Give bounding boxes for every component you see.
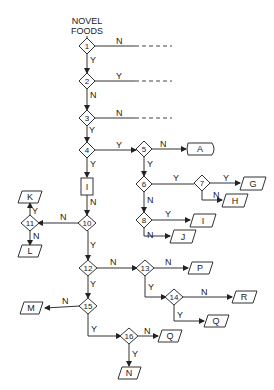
edge-label: Y: [89, 125, 95, 135]
edge-label: N: [116, 36, 123, 46]
svg-text:7: 7: [200, 179, 205, 188]
svg-text:4: 4: [85, 146, 90, 155]
decision-5: 5: [136, 141, 152, 157]
edge-label: N: [62, 296, 69, 306]
svg-text:6: 6: [142, 180, 147, 189]
svg-text:J: J: [181, 232, 186, 242]
edge-label: N: [147, 230, 154, 240]
svg-text:Q: Q: [212, 316, 219, 326]
decision-3: 3: [79, 110, 95, 126]
decision-15: 15: [79, 298, 97, 314]
svg-text:R: R: [241, 292, 248, 302]
svg-text:Q: Q: [166, 331, 173, 341]
svg-text:15: 15: [84, 302, 93, 311]
svg-text:12: 12: [84, 264, 93, 273]
process-box-i: I: [81, 178, 93, 195]
svg-text:16: 16: [125, 332, 134, 341]
edge-label: Y: [32, 206, 38, 216]
terminal-a: A: [187, 143, 214, 155]
title-line-2: FOODS: [71, 26, 103, 36]
edge-label: N: [60, 212, 67, 222]
svg-text:10: 10: [83, 219, 92, 228]
outcome-g: G: [240, 177, 266, 190]
decision-14: 14: [165, 289, 183, 305]
title-line-1: NOVEL: [72, 16, 103, 26]
edge-label: N: [33, 231, 40, 241]
decision-16: 16: [120, 328, 138, 344]
decision-11: 11: [21, 215, 39, 231]
svg-text:A: A: [197, 144, 203, 154]
decision-4: 4: [79, 142, 95, 158]
edge-label: Y: [173, 173, 179, 183]
svg-text:P: P: [197, 263, 203, 273]
outcome-n: N: [118, 367, 141, 379]
svg-text:M: M: [27, 303, 35, 313]
outcome-j: J: [170, 230, 196, 243]
outcome-l: L: [18, 245, 42, 257]
decision-1: 1: [79, 38, 95, 54]
outcome-nodes: G H I J K L P R Q M Q N: [18, 177, 266, 379]
svg-text:I: I: [86, 182, 89, 192]
svg-text:3: 3: [85, 114, 90, 123]
edge-label: Y: [132, 349, 138, 359]
edge-label: N: [147, 195, 154, 205]
svg-text:13: 13: [141, 264, 150, 273]
edge-label: Y: [116, 140, 122, 150]
svg-text:N: N: [126, 368, 133, 378]
outcome-i: I: [190, 214, 216, 227]
svg-text:G: G: [249, 179, 256, 189]
edge-label: Y: [90, 55, 96, 65]
edge-label: Y: [90, 240, 96, 250]
edge-label: N: [213, 190, 220, 200]
outcome-r: R: [232, 291, 257, 303]
edge-label: Y: [90, 279, 96, 289]
edge-label: N: [90, 90, 97, 100]
edge-labels: N Y Y N N Y Y N Y Y Y Y N N Y N N N Y N …: [32, 36, 229, 359]
svg-text:8: 8: [142, 216, 147, 225]
svg-text:11: 11: [26, 219, 35, 228]
edge-label: N: [110, 257, 117, 267]
edge-label: Y: [116, 71, 122, 81]
decision-8: 8: [136, 212, 152, 228]
decision-7: 7: [194, 175, 210, 191]
decision-nodes: 1 2 3 4 5 6 7 8 10 11 12 13 14 15 16: [21, 38, 210, 344]
svg-text:14: 14: [170, 293, 179, 302]
edge-label: Y: [90, 159, 96, 169]
flowchart: NOVEL FOODS: [0, 0, 274, 390]
edge-label: N: [165, 257, 172, 267]
decision-6: 6: [136, 176, 152, 192]
outcome-q-2: Q: [158, 330, 182, 342]
decision-13: 13: [136, 260, 154, 276]
decision-12: 12: [79, 260, 97, 276]
edge-label: N: [116, 108, 123, 118]
edge-label: Y: [165, 209, 171, 219]
svg-text:L: L: [27, 246, 32, 256]
svg-text:K: K: [27, 192, 33, 202]
edge-label: N: [90, 197, 97, 207]
outcome-k: K: [18, 191, 42, 203]
outcome-h: H: [222, 194, 248, 207]
decision-2: 2: [79, 73, 95, 89]
edge-label: Y: [91, 324, 97, 334]
svg-text:1: 1: [85, 42, 90, 51]
svg-text:I: I: [202, 216, 205, 226]
outcome-q-1: Q: [204, 315, 229, 327]
svg-text:2: 2: [85, 77, 90, 86]
edge-label: Y: [177, 310, 183, 320]
edge-label: Y: [148, 282, 154, 292]
edge-label: N: [201, 287, 208, 297]
edge-label: N: [144, 326, 151, 336]
outcome-p: P: [188, 262, 213, 274]
edge-label: Y: [223, 173, 229, 183]
svg-text:H: H: [232, 196, 239, 206]
edge-label: Y: [147, 159, 153, 169]
decision-10: 10: [78, 215, 96, 231]
edge-label: N: [160, 139, 167, 149]
svg-text:5: 5: [142, 145, 147, 154]
outcome-m: M: [20, 302, 43, 314]
